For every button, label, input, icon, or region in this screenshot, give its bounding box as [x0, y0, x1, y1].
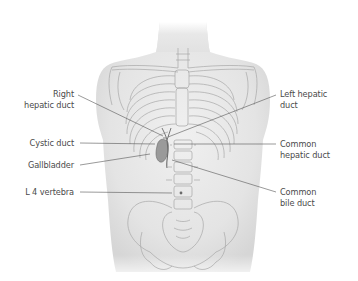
body-silhouette: [96, 22, 270, 281]
label-line: Cystic duct: [30, 138, 74, 149]
label-gallbladder: Gallbladder: [28, 160, 74, 171]
label-line: duct: [280, 100, 327, 111]
label-line: Common: [280, 187, 316, 198]
label-line: Right: [24, 89, 74, 100]
anatomy-figure: Right hepatic duct Cystic duct Gallbladd…: [0, 0, 358, 281]
label-left-hepatic-duct: Left hepatic duct: [280, 89, 327, 110]
label-line: Common: [280, 139, 330, 150]
label-common-bile-duct: Common bile duct: [280, 187, 316, 208]
label-line: hepatic duct: [24, 100, 74, 111]
label-cystic-duct: Cystic duct: [30, 138, 74, 149]
l4-marker: [180, 192, 183, 195]
label-common-hepatic-duct: Common hepatic duct: [280, 139, 330, 160]
label-l4-vertebra: L 4 vertebra: [25, 187, 74, 198]
label-line: hepatic duct: [280, 150, 330, 161]
label-line: Gallbladder: [28, 160, 74, 171]
label-right-hepatic-duct: Right hepatic duct: [24, 89, 74, 110]
label-line: Left hepatic: [280, 89, 327, 100]
label-line: bile duct: [280, 198, 316, 209]
label-line: L 4 vertebra: [25, 187, 74, 198]
